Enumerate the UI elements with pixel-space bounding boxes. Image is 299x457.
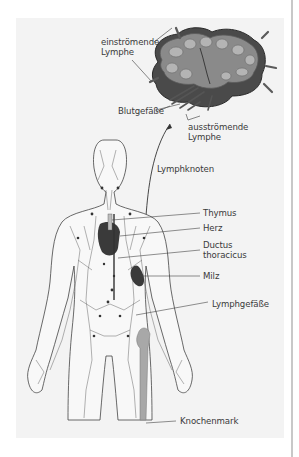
label-milz: Milz (203, 271, 219, 281)
label-line-2: thoracicus (203, 250, 247, 260)
label-line-1: ausströmende (188, 122, 248, 132)
label-ductus-thoracicus: Ductus thoracicus (203, 240, 247, 260)
label-line-2: Lymphe (101, 47, 159, 57)
label-line-1: einströmende (101, 37, 159, 47)
human-body-outline (28, 140, 193, 420)
lymphatic-system-illustration (0, 0, 299, 457)
label-einstroemende-lymphe: einströmende Lymphe (101, 37, 159, 57)
label-ausstroemende-lymphe: ausströmende Lymphe (188, 122, 248, 142)
lymph-node-illustration (150, 28, 276, 110)
label-knochenmark: Knochenmark (180, 416, 238, 426)
label-lymphknoten: Lymphknoten (157, 164, 214, 174)
thymus-illustration (108, 214, 112, 230)
label-line-1: Ductus (203, 240, 247, 250)
label-lymphgefaesse: Lymphgefäße (212, 299, 269, 309)
label-thymus: Thymus (203, 208, 236, 218)
label-line-2: Lymphe (188, 132, 248, 142)
label-herz: Herz (203, 223, 222, 233)
label-blutgefaesse: Blutgefäße (118, 106, 164, 116)
